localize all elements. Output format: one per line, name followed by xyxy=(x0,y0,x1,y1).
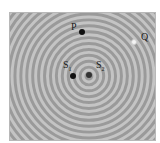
label-S2: S2 xyxy=(96,60,105,72)
point-P xyxy=(79,29,85,35)
point-S2 xyxy=(86,72,92,78)
label-Q: Q xyxy=(141,32,148,42)
point-S1 xyxy=(70,73,76,79)
label-P: P xyxy=(71,22,77,32)
point-Q xyxy=(131,39,137,45)
label-S1: S1 xyxy=(63,60,72,72)
